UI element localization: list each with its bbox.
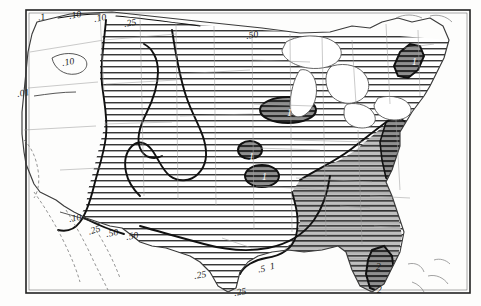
contour-label-1: .10 xyxy=(68,9,82,21)
contour-label-8: 1 xyxy=(412,57,417,67)
contour-label-15: .25 xyxy=(193,269,207,281)
islands-outline xyxy=(408,259,450,292)
map-svg xyxy=(0,0,481,306)
contour-label-3: .25 xyxy=(123,17,137,29)
contour-label-19: 2 xyxy=(376,262,381,272)
contour-label-16: .5 xyxy=(257,263,266,274)
contour-label-0: .1 xyxy=(37,11,46,22)
contour-label-11: .10 xyxy=(68,212,82,224)
contour-map-figure: .1.10.10.25.50.10.011111.10.25.50.50.25.… xyxy=(0,0,481,306)
contour-label-4: .50 xyxy=(245,29,259,41)
contour-label-13: .50 xyxy=(105,227,119,239)
contour-label-7: 1 xyxy=(287,108,292,118)
canada-outline xyxy=(396,15,452,22)
contour-label-14: .50 xyxy=(125,230,139,242)
contour-label-9: 1 xyxy=(249,152,254,162)
contour-label-20: 2 xyxy=(377,285,382,295)
contour-label-5: .10 xyxy=(61,56,75,68)
contour-label-2: .10 xyxy=(93,12,107,24)
contour-label-6: .01 xyxy=(16,87,30,99)
contour-label-18: .25 xyxy=(233,286,247,298)
contour-label-10: 1 xyxy=(262,172,267,182)
